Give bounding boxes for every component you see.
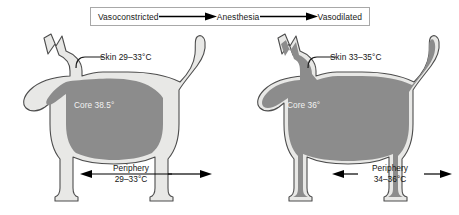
rightward-arrow-icon [159, 12, 217, 21]
skin-temperature-label-right: Skin 33–35°C [330, 52, 381, 62]
periphery-temperature-label-left: Periphery 29–33°C [93, 163, 169, 185]
core-temperature-label-right: Core 36° [287, 100, 320, 110]
anesthesia-transition-legend: Vasoconstricted Anesthesia Vasodilated [90, 7, 370, 26]
periphery-arrow-left-rear [168, 169, 212, 179]
periphery-label-left-line1: Periphery [93, 163, 169, 174]
skin-temperature-label-left: Skin 29–33°C [100, 52, 151, 62]
periphery-label-left-line2: 29–33°C [93, 174, 169, 185]
legend-label-vasodilated: Vasodilated [318, 12, 362, 22]
periphery-label-right-line1: Periphery [352, 163, 428, 174]
periphery-label-right-line2: 34–36°C [352, 174, 428, 185]
periphery-temperature-label-right: Periphery 34–36°C [352, 163, 428, 185]
legend-label-vasoconstricted: Vasoconstricted [98, 12, 159, 22]
periphery-arrow-right-rear [424, 169, 452, 179]
rightward-arrow-icon [260, 12, 318, 21]
core-temperature-label-left: Core 38.5° [74, 100, 114, 110]
legend-label-anesthesia: Anesthesia [217, 12, 260, 22]
